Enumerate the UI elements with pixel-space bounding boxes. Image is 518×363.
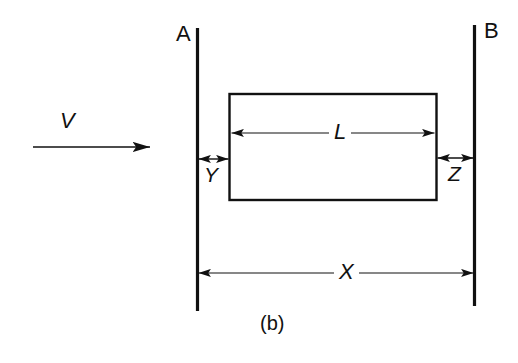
- gap-z-label: Z: [448, 163, 461, 184]
- gap-y-label: Y: [204, 164, 218, 185]
- figure-container: A B V Y Z L X (b): [0, 0, 518, 363]
- block-rectangle: [230, 94, 437, 200]
- wall-a-label: A: [176, 23, 191, 45]
- length-l-label: L: [329, 121, 351, 143]
- velocity-label: V: [60, 110, 75, 132]
- figure-drawing: [0, 0, 518, 363]
- figure-caption: (b): [260, 313, 284, 333]
- wall-b-label: B: [484, 20, 499, 42]
- span-x-label: X: [334, 261, 359, 283]
